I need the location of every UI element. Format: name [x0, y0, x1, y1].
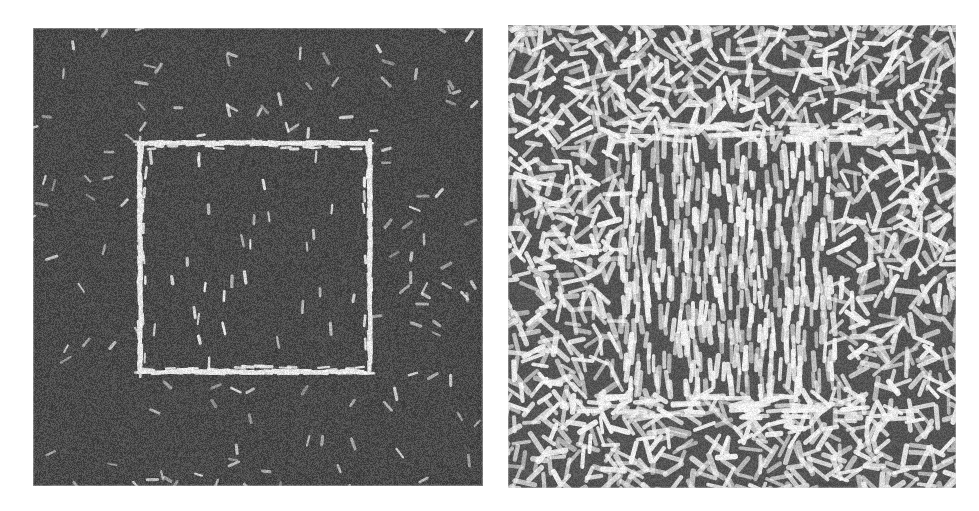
left-texture-canvas	[33, 28, 483, 486]
left-texture-panel	[33, 28, 483, 486]
right-texture-canvas	[508, 25, 956, 488]
right-texture-panel	[508, 25, 956, 488]
figure-root	[0, 0, 979, 511]
